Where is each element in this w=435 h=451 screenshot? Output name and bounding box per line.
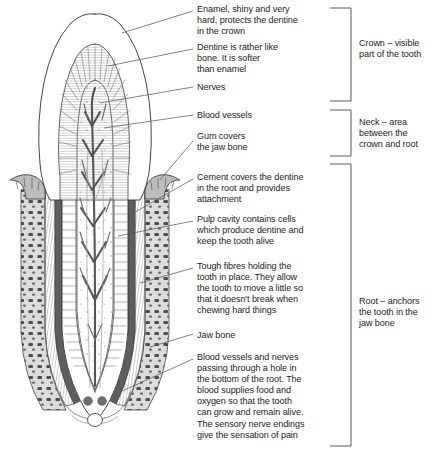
callout-cement: Cement covers the dentine in the root an… <box>197 172 303 205</box>
region-label-neck: Neck – area between the crown and root <box>359 117 418 150</box>
callout-fibres: Tough fibres holding the tooth in place.… <box>197 261 303 316</box>
callout-dentine: Dentine is rather like bone. It is softe… <box>197 42 278 75</box>
bracket-crown <box>330 8 351 101</box>
tooth-diagram: Enamel, shiny and very hard, protects th… <box>0 0 435 451</box>
region-label-root: Root – anchors the tooth in the jaw bone <box>359 296 419 329</box>
callout-pulp-cavity: Pulp cavity contains cells which produce… <box>197 214 303 247</box>
bracket-neck <box>330 110 351 156</box>
callout-nerves: Nerves <box>197 82 225 93</box>
callout-enamel: Enamel, shiny and very hard, protects th… <box>197 4 298 37</box>
callout-root-apex: Blood vessels and nerves passing through… <box>197 352 304 441</box>
callout-gum: Gum covers the jaw bone <box>197 131 247 153</box>
callout-blood-vessels: Blood vessels <box>197 110 252 121</box>
bracket-root <box>330 164 351 446</box>
region-label-crown: Crown – visible part of the tooth <box>359 38 421 60</box>
callout-jaw-bone: Jaw bone <box>197 330 235 341</box>
